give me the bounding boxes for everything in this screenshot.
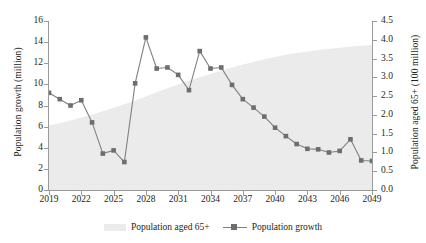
- data-point-marker: [230, 83, 235, 88]
- data-point-marker: [101, 151, 106, 156]
- data-point-marker: [187, 88, 192, 93]
- data-point-marker: [316, 147, 321, 152]
- data-point-marker: [165, 65, 170, 70]
- y-axis-left-tick-mark: [44, 63, 48, 64]
- data-point-marker: [79, 98, 84, 103]
- x-axis-tick-mark: [307, 191, 308, 195]
- data-point-marker: [262, 114, 267, 119]
- x-axis-tick-mark: [49, 191, 50, 195]
- x-axis-tick-label: 2034: [194, 194, 228, 204]
- y-axis-left-tick-label: 14: [13, 36, 43, 46]
- data-point-marker: [154, 66, 159, 71]
- y-axis-left-tick-label: 10: [13, 78, 43, 88]
- y-axis-right-tick-mark: [373, 115, 377, 116]
- legend-item-population-aged-65plus: Population aged 65+: [104, 222, 210, 232]
- y-axis-left-tick-mark: [44, 106, 48, 107]
- data-point-marker: [305, 147, 310, 152]
- x-axis-tick-label: 2031: [161, 194, 195, 204]
- x-axis-tick-mark: [372, 191, 373, 195]
- y-axis-right-tick-label: 0.0: [381, 184, 411, 194]
- x-axis-tick-mark: [275, 191, 276, 195]
- chart-svg: [49, 21, 372, 190]
- y-axis-right-tick-mark: [373, 96, 377, 97]
- y-axis-right-tick-label: 1.0: [381, 146, 411, 156]
- data-point-marker: [197, 49, 202, 54]
- chart-container: Population growth (million) Population a…: [0, 0, 426, 243]
- data-point-marker: [284, 134, 289, 139]
- y-axis-right-tick-mark: [373, 190, 377, 191]
- area-swatch-icon: [104, 224, 126, 231]
- x-axis-tick-mark: [243, 191, 244, 195]
- y-axis-right-tick-mark: [373, 77, 377, 78]
- x-axis-tick-mark: [178, 191, 179, 195]
- data-point-marker: [294, 142, 299, 147]
- y-axis-right-tick-label: 0.5: [381, 165, 411, 175]
- x-axis-tick-label: 2022: [64, 194, 98, 204]
- y-axis-right-tick-mark: [373, 134, 377, 135]
- data-point-marker: [208, 66, 213, 71]
- y-axis-right-title: Population aged 65+ (100 million): [410, 17, 420, 187]
- y-axis-right-line: [372, 21, 373, 191]
- x-axis-tick-label: 2019: [32, 194, 66, 204]
- data-point-marker: [57, 97, 62, 102]
- x-axis-tick-label: 2046: [323, 194, 357, 204]
- legend-item-population-growth: Population growth: [223, 222, 322, 232]
- x-axis-tick-label: 2037: [226, 194, 260, 204]
- y-axis-right-tick-label: 4.0: [381, 34, 411, 44]
- legend-label-line: Population growth: [252, 222, 322, 232]
- data-point-marker: [122, 160, 127, 165]
- data-point-marker: [176, 73, 181, 78]
- y-axis-left-tick-label: 2: [13, 163, 43, 173]
- y-axis-left-tick-label: 12: [13, 57, 43, 67]
- x-axis-tick-mark: [340, 191, 341, 195]
- y-axis-left-tick-label: 8: [13, 100, 43, 110]
- data-point-marker: [241, 97, 246, 102]
- y-axis-left-tick-label: 4: [13, 142, 43, 152]
- y-axis-right-tick-label: 1.5: [381, 128, 411, 138]
- y-axis-right-tick-label: 4.5: [381, 15, 411, 25]
- x-axis-tick-mark: [146, 191, 147, 195]
- line-marker-swatch-icon: [223, 223, 247, 231]
- x-axis-tick-mark: [81, 191, 82, 195]
- data-point-marker: [49, 91, 51, 96]
- y-axis-left-tick-mark: [44, 127, 48, 128]
- data-point-marker: [251, 105, 256, 110]
- y-axis-left-tick-mark: [44, 190, 48, 191]
- data-point-marker: [348, 137, 353, 142]
- x-axis-tick-label: 2049: [355, 194, 389, 204]
- y-axis-right-tick-label: 2.5: [381, 90, 411, 100]
- x-axis-tick-label: 2028: [129, 194, 163, 204]
- y-axis-left-tick-label: 6: [13, 121, 43, 131]
- data-point-marker: [327, 150, 332, 155]
- data-point-marker: [133, 81, 138, 86]
- y-axis-right-tick-label: 3.0: [381, 71, 411, 81]
- y-axis-left-tick-mark: [44, 21, 48, 22]
- y-axis-left-tick-mark: [44, 148, 48, 149]
- x-axis-tick-label: 2040: [258, 194, 292, 204]
- data-point-marker: [337, 149, 342, 154]
- y-axis-right-tick-mark: [373, 171, 377, 172]
- y-axis-right-tick-mark: [373, 59, 377, 60]
- y-axis-right-tick-mark: [373, 40, 377, 41]
- data-point-marker: [273, 125, 278, 130]
- x-axis-tick-mark: [114, 191, 115, 195]
- plot-area: [49, 21, 372, 190]
- y-axis-left-tick-label: 0: [13, 184, 43, 194]
- data-point-marker: [144, 35, 149, 40]
- data-point-marker: [111, 148, 116, 153]
- data-point-marker: [68, 103, 73, 108]
- data-point-marker: [90, 120, 95, 125]
- data-point-marker: [370, 159, 372, 164]
- x-axis-tick-label: 2025: [97, 194, 131, 204]
- y-axis-left-tick-mark: [44, 169, 48, 170]
- x-axis-tick-label: 2043: [290, 194, 324, 204]
- legend-label-area: Population aged 65+: [131, 222, 210, 232]
- chart-legend: Population aged 65+ Population growth: [0, 222, 426, 232]
- data-point-marker: [219, 65, 224, 70]
- y-axis-right-tick-mark: [373, 152, 377, 153]
- data-point-marker: [359, 158, 364, 163]
- y-axis-left-tick-label: 16: [13, 15, 43, 25]
- y-axis-right-tick-mark: [373, 21, 377, 22]
- y-axis-right-tick-label: 2.0: [381, 109, 411, 119]
- x-axis-tick-mark: [211, 191, 212, 195]
